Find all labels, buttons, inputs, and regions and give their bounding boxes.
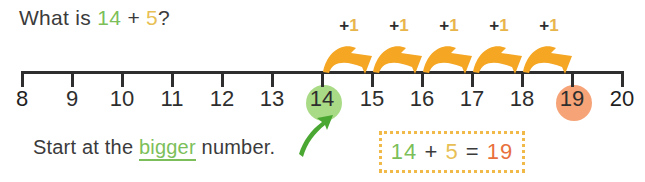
tick-label-12: 12	[199, 86, 245, 112]
hint-after: number.	[202, 136, 276, 158]
jump-label-17-to-18: +1	[470, 16, 528, 36]
jump-arrow-17-to-18	[470, 34, 528, 74]
tick-label-18: 18	[499, 86, 545, 112]
hint-emphasis-word: bigger	[139, 136, 196, 161]
answer-equation: 14 + 5 = 19	[391, 139, 513, 165]
tick-11	[171, 71, 174, 87]
tick-13	[271, 71, 274, 87]
answer-result: 19	[487, 139, 513, 164]
jump-plus-sign: +	[339, 16, 349, 35]
question-text: What is 14 + 5?	[19, 6, 170, 30]
tick-16	[421, 71, 424, 87]
tick-label-17: 17	[449, 86, 495, 112]
jump-arrow-14-to-15	[320, 34, 378, 74]
number-highlight-19	[556, 85, 592, 121]
jump-plus-sign: +	[539, 16, 549, 35]
answer-box[interactable]: 14 + 5 = 19	[379, 131, 525, 173]
tick-label-20: 20	[599, 86, 645, 112]
tick-12	[221, 71, 224, 87]
tick-20	[621, 71, 624, 87]
tick-14	[321, 71, 324, 87]
question-prefix: What is	[19, 6, 91, 29]
tick-label-15: 15	[349, 86, 395, 112]
question-addend-a: 14	[97, 6, 121, 29]
jump-plus-sign: +	[489, 16, 499, 35]
question-addend-b: 5	[146, 6, 158, 29]
tick-9	[71, 71, 74, 87]
answer-addend-b: 5	[445, 139, 458, 164]
tick-label-16: 16	[399, 86, 445, 112]
answer-equals-sign: =	[466, 139, 480, 164]
answer-addend-a: 14	[391, 139, 417, 164]
jump-label-18-to-19: +1	[520, 16, 578, 36]
tick-label-19: 19	[549, 86, 595, 112]
tick-18	[521, 71, 524, 87]
jump-step-value: 1	[499, 16, 508, 35]
tick-label-13: 13	[249, 86, 295, 112]
question-suffix: ?	[158, 6, 170, 29]
tick-label-14: 14	[299, 86, 345, 112]
question-operator: +	[127, 6, 140, 29]
hint-before: Start at the	[33, 136, 133, 158]
tick-19	[571, 71, 574, 87]
tick-label-8: 8	[0, 86, 45, 112]
jump-label-14-to-15: +1	[320, 16, 378, 36]
jump-step-value: 1	[549, 16, 558, 35]
jump-plus-sign: +	[389, 16, 399, 35]
tick-label-10: 10	[99, 86, 145, 112]
jump-step-value: 1	[449, 16, 458, 35]
green-pointer-arrow-icon	[297, 113, 341, 161]
number-line-axis	[22, 71, 623, 74]
jump-arrow-15-to-16	[370, 34, 428, 74]
jump-label-15-to-16: +1	[370, 16, 428, 36]
tick-10	[121, 71, 124, 87]
hint-text: Start at the bigger number.	[33, 136, 275, 159]
answer-operator: +	[424, 139, 438, 164]
tick-17	[471, 71, 474, 87]
jump-step-value: 1	[399, 16, 408, 35]
tick-label-11: 11	[149, 86, 195, 112]
tick-label-9: 9	[49, 86, 95, 112]
jump-plus-sign: +	[439, 16, 449, 35]
jump-arrow-18-to-19	[520, 34, 578, 74]
worksheet-canvas: What is 14 + 5? 891011121314151617181920…	[0, 0, 645, 182]
tick-8	[21, 71, 24, 87]
tick-15	[371, 71, 374, 87]
jump-label-16-to-17: +1	[420, 16, 478, 36]
jump-arrow-16-to-17	[420, 34, 478, 74]
jump-step-value: 1	[349, 16, 358, 35]
